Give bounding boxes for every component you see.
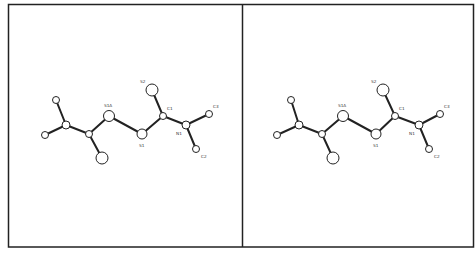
atom-label-c1: C1 bbox=[167, 106, 173, 111]
atom-a2 bbox=[42, 132, 49, 139]
atom-label-n1: N1 bbox=[176, 131, 182, 136]
atom-a5 bbox=[96, 152, 108, 164]
right-stereo-panel: S1AS1S2C1N1C3C2 bbox=[274, 79, 450, 164]
atom-label-c3: C3 bbox=[444, 104, 450, 109]
atom-a4 bbox=[319, 131, 326, 138]
atom-label-c2: C2 bbox=[434, 154, 440, 159]
atom-c3 bbox=[437, 111, 444, 118]
atom-n1 bbox=[182, 121, 190, 129]
atom-a2 bbox=[274, 132, 281, 139]
atom-a5 bbox=[327, 152, 339, 164]
atom-s2 bbox=[146, 84, 158, 96]
atom-label-s2: S2 bbox=[140, 79, 146, 84]
atom-s1a bbox=[104, 111, 115, 122]
atom-c1 bbox=[392, 113, 399, 120]
atom-s2 bbox=[377, 84, 389, 96]
atom-c3 bbox=[206, 111, 213, 118]
atom-label-s1: S1 bbox=[373, 143, 379, 148]
atom-s1 bbox=[137, 129, 147, 139]
atom-c2 bbox=[193, 146, 200, 153]
stereo-molecule-figure: S1AS1S2C1N1C3C2 S1AS1S2C1N1C3C2 bbox=[0, 0, 476, 258]
atom-label-s1: S1 bbox=[139, 143, 145, 148]
outer-frame bbox=[9, 5, 474, 248]
atom-label-s1a: S1A bbox=[338, 103, 346, 108]
left-stereo-panel: S1AS1S2C1N1C3C2 bbox=[42, 79, 219, 164]
atom-a4 bbox=[86, 131, 93, 138]
atom-n1 bbox=[415, 121, 423, 129]
atom-label-c3: C3 bbox=[213, 104, 219, 109]
atom-a3 bbox=[62, 121, 70, 129]
atom-label-s2: S2 bbox=[371, 79, 377, 84]
atom-label-c1: C1 bbox=[399, 106, 405, 111]
atom-c1 bbox=[160, 113, 167, 120]
atom-a1 bbox=[53, 97, 60, 104]
atom-label-c2: C2 bbox=[201, 154, 207, 159]
atom-c2 bbox=[426, 146, 433, 153]
atom-s1a bbox=[338, 111, 349, 122]
atom-label-n1: N1 bbox=[409, 131, 415, 136]
atom-s1 bbox=[371, 129, 381, 139]
atom-label-s1a: S1A bbox=[104, 103, 112, 108]
atom-a3 bbox=[295, 121, 303, 129]
atom-a1 bbox=[288, 97, 295, 104]
